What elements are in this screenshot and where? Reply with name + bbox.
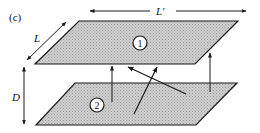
plate-1-badge: 1 <box>133 36 147 50</box>
width-dimension-arrow: L' <box>90 5 246 17</box>
separation-label: D <box>11 91 20 103</box>
plate-1-label: 1 <box>138 38 143 49</box>
plate-2-badge: 2 <box>90 98 104 112</box>
plate-2 <box>36 83 237 125</box>
width-label: L' <box>155 5 165 17</box>
panel-label: (c) <box>9 11 22 24</box>
plate-2-label: 2 <box>95 100 100 111</box>
separation-dimension-arrow: D <box>11 67 24 124</box>
length-label: L <box>33 32 40 44</box>
parallel-plates-diagram: (c) L' 1 L 2 D <box>0 0 260 133</box>
